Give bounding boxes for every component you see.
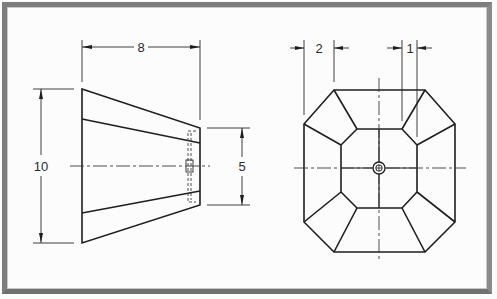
dimension-5: 5 — [207, 128, 250, 205]
facet-edge — [334, 90, 357, 129]
arrowhead-icon — [417, 46, 426, 50]
facet-edge — [304, 124, 341, 145]
dimension-label-2: 2 — [315, 41, 322, 56]
facet-edge — [304, 192, 341, 222]
facet-edge — [402, 208, 425, 252]
dimension-label-8: 8 — [137, 40, 144, 55]
dimension-1: 1 — [387, 40, 432, 137]
end-view: 2 1 — [290, 40, 466, 262]
arrowhead-icon — [82, 45, 92, 49]
dimension-10: 10 — [33, 89, 74, 243]
arrowhead-icon — [190, 45, 200, 49]
arrowhead-icon — [334, 46, 343, 50]
arrowhead-icon — [39, 233, 43, 243]
arrowhead-icon — [240, 195, 244, 205]
front-view-lower-facet-line — [82, 191, 200, 213]
facet-edge — [334, 208, 357, 252]
facet-edge — [402, 90, 425, 129]
facet-edge — [417, 192, 455, 222]
dimension-label-10: 10 — [34, 159, 48, 174]
drawing-sheet: 8 10 5 — [0, 0, 497, 299]
dimension-label-1: 1 — [406, 41, 413, 56]
dimension-2: 2 — [290, 40, 349, 115]
arrowhead-icon — [39, 89, 43, 99]
arrowhead-icon — [240, 128, 244, 138]
technical-drawing: 8 10 5 — [0, 0, 497, 299]
facet-edge — [417, 124, 455, 145]
arrowhead-icon — [393, 46, 402, 50]
front-view: 8 10 5 — [33, 40, 250, 243]
arrowhead-icon — [295, 46, 304, 50]
dimension-label-5: 5 — [238, 159, 245, 174]
